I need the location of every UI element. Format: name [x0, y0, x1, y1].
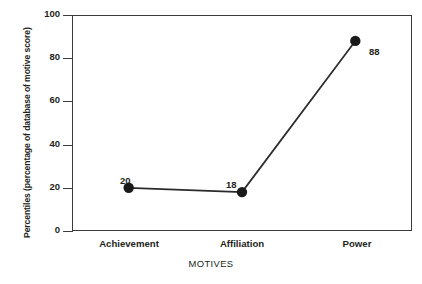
x-category-label-power: Power: [292, 239, 422, 249]
point-value-label-achievement: 20: [120, 176, 131, 186]
data-point-affiliation: [237, 187, 247, 197]
point-value-label-affiliation: 18: [226, 180, 237, 190]
series-markers: [123, 36, 360, 198]
point-value-label-power: 88: [369, 47, 380, 57]
x-category-label-achievement: Achievement: [64, 239, 194, 249]
data-point-power: [350, 36, 360, 46]
motive-percentile-chart: Percentiles (percentage of database of m…: [0, 0, 422, 284]
x-axis-title: MOTIVES: [0, 259, 422, 268]
series-line: [129, 41, 356, 192]
x-category-label-affiliation: Affiliation: [177, 239, 307, 249]
